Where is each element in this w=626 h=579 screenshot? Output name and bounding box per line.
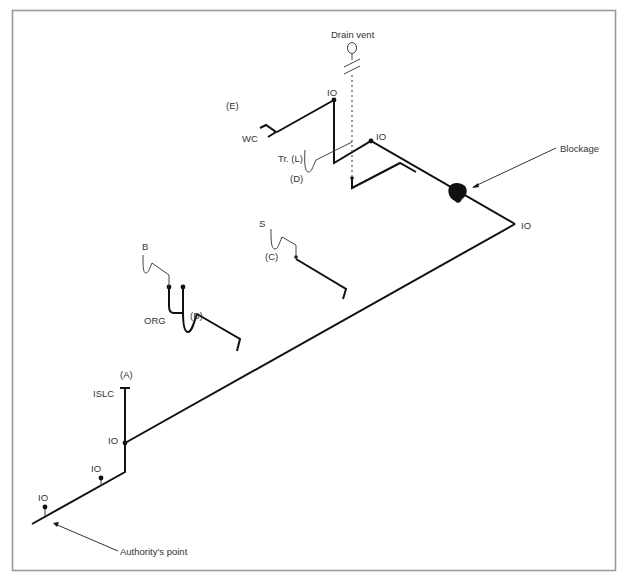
io-main-node (123, 441, 128, 446)
label-a: (A) (120, 369, 133, 380)
branch-d-drain (352, 163, 416, 188)
label-io-far-right: IO (521, 220, 531, 231)
io-lowest-node (43, 505, 48, 510)
io-mid-low-node (99, 476, 104, 481)
io-top-node (332, 98, 337, 103)
basin-waste (152, 263, 169, 287)
label-b: (B) (190, 310, 203, 321)
label-d: (D) (290, 173, 303, 184)
label-e: (E) (226, 100, 239, 111)
authority-arrowhead (53, 522, 59, 527)
main-drain-diagonal (125, 224, 515, 443)
label-b-fixture: B (142, 241, 148, 252)
label-org: ORG (144, 315, 166, 326)
blockage-mass (448, 183, 466, 203)
basin-trap (143, 255, 152, 273)
main-drain-lower (32, 443, 125, 524)
drain-vent-terminal (348, 43, 357, 54)
authority-leader (55, 524, 118, 551)
label-wc: WC (242, 133, 258, 144)
trap-l-trap (305, 150, 316, 172)
blockage-leader (473, 148, 556, 187)
blockage-arrowhead (472, 183, 479, 188)
drain-vent-break-2 (344, 66, 360, 74)
label-s: S (259, 218, 265, 229)
drainage-diagram: Drain vent IO (E) WC IO Tr. (L) (D) Bloc… (0, 0, 626, 579)
label-io-main: IO (108, 435, 118, 446)
wc-branch (277, 100, 334, 132)
label-drain-vent: Drain vent (331, 29, 375, 40)
diagram-frame (13, 11, 616, 571)
label-io-top: IO (327, 87, 337, 98)
sink-trap (271, 229, 282, 249)
upper-run-right (334, 100, 515, 224)
label-io-mid-low: IO (91, 463, 101, 474)
drain-vent-break-1 (344, 59, 360, 67)
sink-waste (282, 237, 296, 257)
label-io-upper-right: IO (376, 131, 386, 142)
b-node (181, 285, 186, 290)
label-islc: ISLC (93, 388, 114, 399)
branch-c-drain (296, 259, 346, 299)
label-authority-point: Authority's point (120, 546, 188, 557)
branch-b-drain (197, 314, 240, 351)
wc-fitting (260, 125, 276, 137)
label-io-lowest: IO (38, 492, 48, 503)
org-pipe (169, 287, 183, 313)
io-upper-right-node (369, 139, 374, 144)
label-blockage: Blockage (560, 143, 599, 154)
label-c: (C) (265, 251, 278, 262)
label-trap-l: Tr. (L) (278, 153, 303, 164)
